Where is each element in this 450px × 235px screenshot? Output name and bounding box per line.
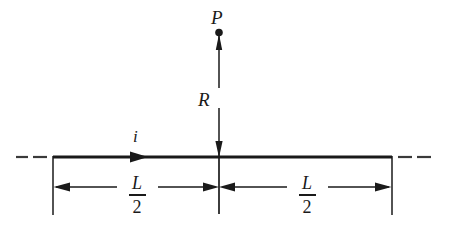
dimension-right-arrow-inward-icon: [219, 182, 235, 191]
figure-canvas: P R i L 2 L 2: [0, 0, 450, 235]
diagram-svg: [0, 0, 450, 235]
dimension-left-arrow-outward-icon: [54, 182, 71, 191]
current-direction-arrow-icon: [130, 152, 148, 163]
half-length-left-denominator: 2: [120, 197, 154, 216]
half-length-right-denominator: 2: [290, 197, 324, 216]
dimension-right-arrow-outward-icon: [375, 182, 392, 191]
half-length-right-fraction-bar: [299, 194, 316, 196]
half-length-left-numerator: L: [120, 174, 154, 193]
half-length-left-fraction-bar: [129, 194, 146, 196]
point-p-label: P: [211, 8, 223, 27]
radius-arrow-up-icon: [216, 34, 222, 50]
current-i-label: i: [133, 128, 138, 145]
dimension-left-arrow-inward-icon: [203, 182, 219, 191]
half-length-right-label: L 2: [290, 174, 324, 216]
half-length-right-numerator: L: [290, 174, 324, 193]
point-p-dot: [215, 29, 223, 37]
distance-r-label: R: [198, 90, 210, 109]
half-length-left-label: L 2: [120, 174, 154, 216]
